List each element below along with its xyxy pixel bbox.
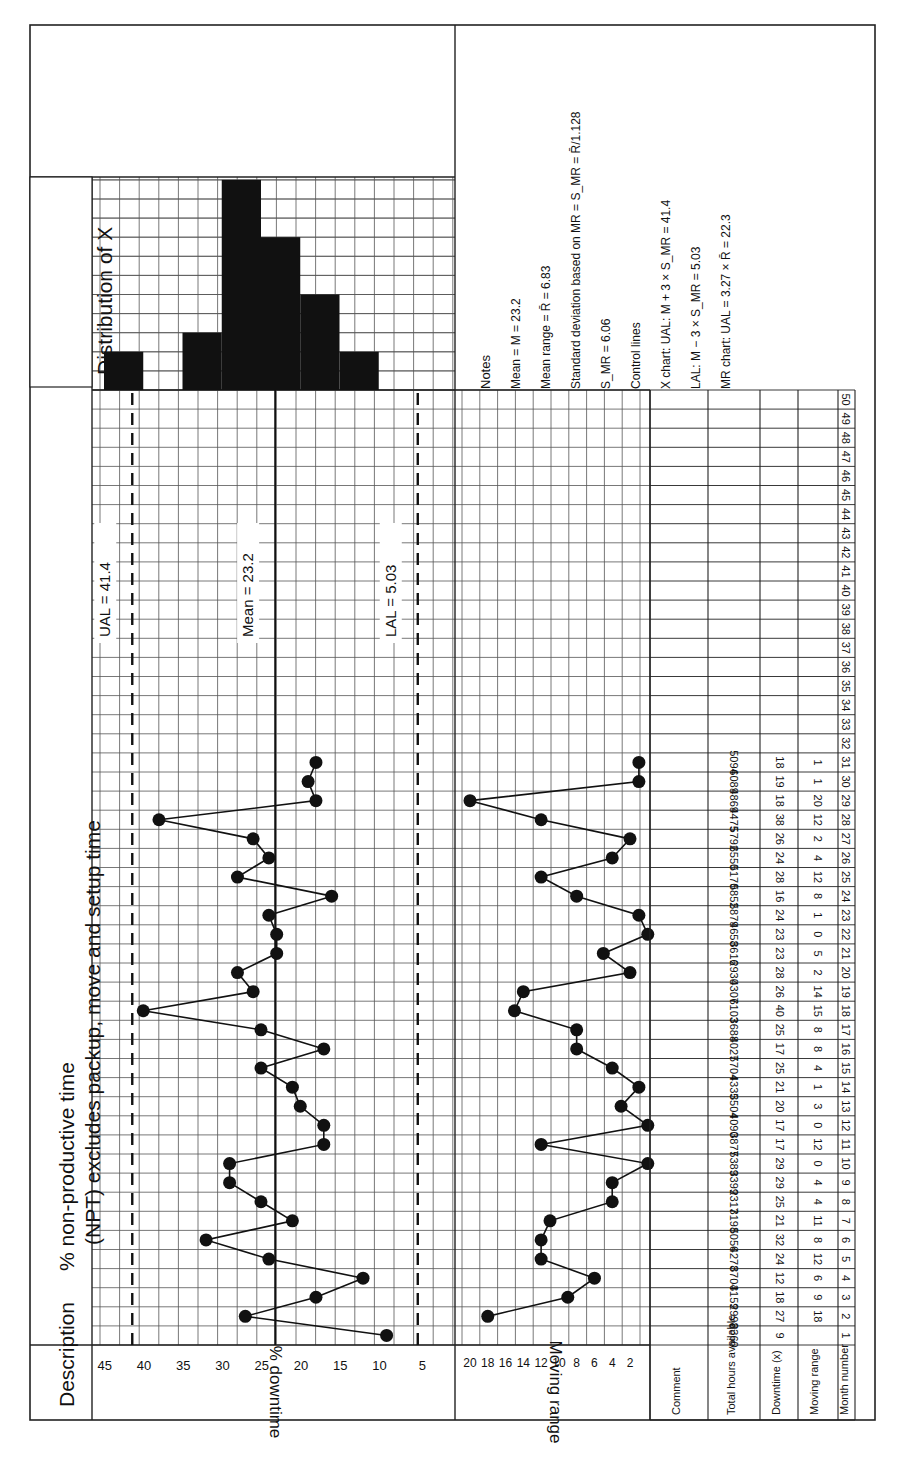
svg-text:41: 41 [840, 565, 852, 577]
x-data-point [302, 775, 315, 788]
svg-text:35: 35 [840, 680, 852, 692]
svg-text:Comment: Comment [670, 1367, 682, 1415]
svg-text:39: 39 [840, 604, 852, 616]
svg-text:50: 50 [840, 393, 852, 405]
mr-data-point [606, 1195, 619, 1208]
svg-text:28: 28 [840, 814, 852, 826]
x-data-point [317, 1119, 330, 1132]
mr-data-point [624, 832, 637, 845]
svg-text:Moving range: Moving range [808, 1348, 820, 1415]
svg-text:7: 7 [840, 1218, 852, 1224]
svg-text:37: 37 [840, 642, 852, 654]
svg-text:1: 1 [812, 1084, 824, 1090]
mr-data-point [544, 1214, 557, 1227]
mr-data-point [508, 1004, 521, 1017]
svg-text:12: 12 [812, 814, 824, 826]
x-data-point [239, 1310, 252, 1323]
svg-text:27: 27 [840, 833, 852, 845]
x-data-point [270, 928, 283, 941]
x-data-point [255, 1062, 268, 1075]
svg-text:Control lines: Control lines [629, 322, 643, 389]
svg-text:LAL = 5.03: LAL = 5.03 [382, 565, 399, 637]
svg-text:20: 20 [294, 1358, 308, 1373]
svg-text:5: 5 [419, 1358, 426, 1373]
svg-text:UAL = 41.4: UAL = 41.4 [96, 562, 113, 637]
svg-text:5: 5 [840, 1256, 852, 1262]
svg-text:12: 12 [840, 1119, 852, 1131]
svg-text:18: 18 [774, 756, 786, 768]
svg-text:X chart: UAL: M + 3 × S_MR =: X chart: UAL: M + 3 × S_MR = 41.4 [659, 200, 673, 389]
svg-text:15: 15 [333, 1358, 347, 1373]
svg-text:27: 27 [774, 1310, 786, 1322]
svg-text:22: 22 [840, 928, 852, 940]
svg-text:23: 23 [840, 909, 852, 921]
svg-text:LAL: M − 3 × S_MR = 5.03: LAL: M − 3 × S_MR = 5.03 [689, 246, 703, 389]
svg-text:25: 25 [774, 1196, 786, 1208]
svg-text:42: 42 [840, 546, 852, 558]
svg-text:33: 33 [840, 718, 852, 730]
svg-text:6: 6 [591, 1356, 598, 1370]
svg-text:3: 3 [812, 1103, 824, 1109]
svg-text:26: 26 [774, 833, 786, 845]
x-data-point [262, 851, 275, 864]
svg-text:4: 4 [812, 1199, 824, 1205]
mr-data-point [641, 1157, 654, 1170]
mr-data-point [535, 1233, 548, 1246]
svg-text:23: 23 [774, 928, 786, 940]
svg-text:16: 16 [840, 1043, 852, 1055]
svg-text:32: 32 [840, 737, 852, 749]
svg-text:18: 18 [774, 1291, 786, 1303]
svg-text:45: 45 [840, 489, 852, 501]
xmr-chart-sheet: UAL = 41.4Mean = 23.2LAL = 5.03 45403530… [0, 0, 912, 1467]
svg-text:17: 17 [840, 1024, 852, 1036]
mr-data-point [535, 1253, 548, 1266]
svg-text:0: 0 [812, 1122, 824, 1128]
mr-data-point [641, 928, 654, 941]
x-data-point [309, 794, 322, 807]
notes-panel: Mean = M = 23.2Mean range = R̄ = 6.83Sta… [509, 111, 733, 389]
svg-text:16: 16 [499, 1356, 513, 1370]
mr-data-point [464, 794, 477, 807]
svg-text:18: 18 [481, 1356, 495, 1370]
x-data-point [247, 832, 260, 845]
svg-text:38: 38 [840, 623, 852, 635]
svg-text:11: 11 [840, 1139, 852, 1150]
x-data-point [309, 756, 322, 769]
svg-text:3: 3 [840, 1294, 852, 1300]
x-data-point [294, 1100, 307, 1113]
svg-text:43: 43 [840, 527, 852, 539]
x-data-point [255, 1195, 268, 1208]
mr-data-point [570, 1042, 583, 1055]
svg-text:24: 24 [774, 1253, 786, 1265]
mr-data-point [624, 966, 637, 979]
svg-text:12: 12 [812, 1253, 824, 1265]
svg-text:14: 14 [812, 986, 824, 998]
svg-text:48: 48 [840, 432, 852, 444]
x-data-point [380, 1329, 393, 1342]
mr-data-point [535, 813, 548, 826]
svg-text:0: 0 [812, 931, 824, 937]
svg-text:1: 1 [840, 1332, 852, 1338]
svg-text:6: 6 [812, 1275, 824, 1281]
mr-data-point [561, 1291, 574, 1304]
x-data-point [357, 1272, 370, 1285]
svg-text:MR chart: UAL = 3.27 × R̄ = 22: MR chart: UAL = 3.27 × R̄ = 22.3 [719, 214, 733, 389]
svg-text:24: 24 [774, 852, 786, 864]
svg-text:25: 25 [774, 1024, 786, 1036]
description-label: Description [55, 1302, 78, 1407]
svg-text:29: 29 [774, 1157, 786, 1169]
svg-text:4: 4 [812, 1065, 824, 1071]
svg-text:Mean range = R̄ = 6.83: Mean range = R̄ = 6.83 [539, 265, 553, 389]
distribution-label: Distribution of X [93, 227, 116, 375]
svg-text:30: 30 [215, 1358, 229, 1373]
mr-data-point [517, 985, 530, 998]
svg-text:26: 26 [840, 852, 852, 864]
mr-data-point [570, 890, 583, 903]
svg-text:1: 1 [812, 759, 824, 765]
x-data-point [262, 909, 275, 922]
x-data-point [231, 871, 244, 884]
svg-text:10: 10 [372, 1358, 386, 1373]
svg-text:10: 10 [840, 1157, 852, 1169]
x-data-point [223, 1176, 236, 1189]
svg-text:46: 46 [840, 470, 852, 482]
